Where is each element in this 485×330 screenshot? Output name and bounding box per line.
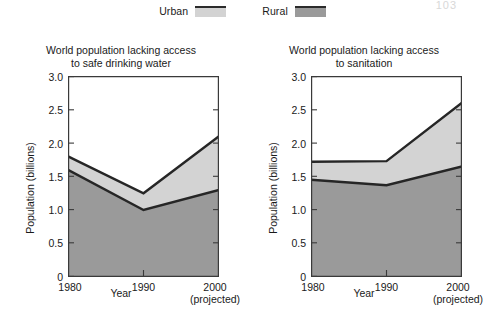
chart-safe-drinking-water: World population lacking access to safe … xyxy=(7,44,235,330)
x-axis-label-sanitation: Year xyxy=(250,287,478,299)
y-tick-label-0-5: 0.5 xyxy=(291,238,306,249)
legend-swatch-rural-icon xyxy=(295,6,326,17)
figure-page: 103 Urban Rural World population lacking… xyxy=(0,0,485,330)
y-tick-label-2-5: 2.5 xyxy=(48,105,63,116)
legend-swatch-urban-icon xyxy=(195,6,226,17)
y-tick-label-0-5: 0.5 xyxy=(48,238,63,249)
y-tick-label-1-0: 1.0 xyxy=(48,205,63,216)
y-tick-label-1-5: 1.5 xyxy=(291,171,306,182)
y-tick-label-2-0: 2.0 xyxy=(291,138,306,149)
plot-svg-sanitation xyxy=(311,76,462,277)
legend-label-urban: Urban xyxy=(159,6,188,17)
chart-sanitation: World population lacking access to sanit… xyxy=(250,44,478,330)
legend-entry-urban: Urban xyxy=(159,6,226,17)
chart-title-sanitation: World population lacking access to sanit… xyxy=(250,44,478,70)
y-axis-label-sanitation: Population (billions) xyxy=(267,118,279,258)
y-tick-label-2-0: 2.0 xyxy=(48,138,63,149)
y-tick-label-3-0: 3.0 xyxy=(48,72,63,83)
chart-title-line1: World population lacking access xyxy=(250,44,478,57)
plot-area-water: 0 0.5 1.0 1.5 2.0 2.5 3.0 1980 1990 2000… xyxy=(68,76,219,277)
legend-label-rural: Rural xyxy=(262,6,288,17)
chart-title-line1: World population lacking access xyxy=(7,44,235,57)
x-axis-label-water: Year xyxy=(7,287,235,299)
y-tick-label-1-5: 1.5 xyxy=(48,171,63,182)
plot-area-sanitation: 0 0.5 1.0 1.5 2.0 2.5 3.0 1980 1990 2000… xyxy=(311,76,462,277)
legend-entry-rural: Rural xyxy=(262,6,326,17)
y-tick-label-3-0: 3.0 xyxy=(291,72,306,83)
plot-svg-water xyxy=(68,76,219,277)
chart-title-line2: to sanitation xyxy=(250,57,478,70)
y-tick-label-2-5: 2.5 xyxy=(291,105,306,116)
chart-legend: Urban Rural xyxy=(0,2,485,20)
y-tick-label-1-0: 1.0 xyxy=(291,205,306,216)
y-axis-label-water: Population (billions) xyxy=(24,118,36,258)
chart-title-line2: to safe drinking water xyxy=(7,57,235,70)
chart-title-water: World population lacking access to safe … xyxy=(7,44,235,70)
